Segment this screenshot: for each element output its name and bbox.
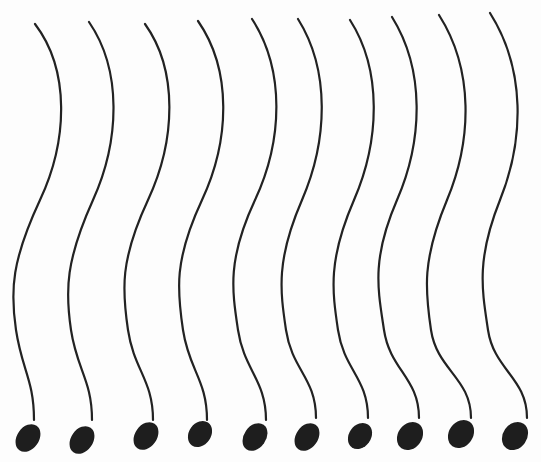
- strand-head: [10, 419, 45, 456]
- drawing-canvas: [0, 0, 541, 462]
- strand-head: [497, 417, 534, 455]
- strand-tail: [483, 13, 527, 418]
- strand-4: [179, 21, 223, 452]
- strand-tail: [233, 19, 276, 420]
- strand-6: [282, 19, 325, 456]
- strand-5: [233, 19, 276, 456]
- strand-tail: [334, 20, 374, 418]
- strand-3: [124, 24, 169, 455]
- strand-tail: [378, 17, 419, 418]
- strand-tail: [282, 19, 322, 418]
- strand-10: [483, 13, 534, 455]
- strand-head: [183, 416, 217, 452]
- strand-8: [378, 17, 428, 455]
- strand-tail: [427, 15, 471, 418]
- strand-head: [392, 417, 429, 455]
- strand-tail: [13, 24, 61, 420]
- wavy-strands-illustration: [0, 0, 541, 462]
- strand-1: [10, 24, 61, 457]
- strand-head: [443, 415, 480, 453]
- strand-tail: [179, 21, 223, 420]
- strand-head: [289, 418, 324, 455]
- strand-head: [64, 421, 99, 458]
- strand-head: [128, 417, 163, 454]
- strand-2: [64, 22, 113, 459]
- strand-head: [237, 418, 272, 455]
- strand-tail: [68, 22, 114, 420]
- strand-7: [334, 20, 377, 454]
- strand-9: [427, 15, 480, 453]
- strand-tail: [124, 24, 169, 420]
- strand-head: [343, 418, 377, 454]
